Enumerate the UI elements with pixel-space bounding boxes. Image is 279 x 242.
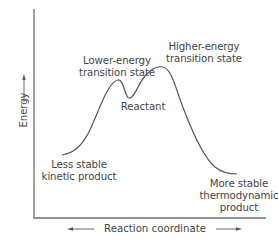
lower-ts-label-line2: transition state xyxy=(72,67,162,79)
reactant-label: Reactant xyxy=(113,101,173,113)
x-axis-label: Reaction coordinate xyxy=(60,223,250,234)
reaction-energy-diagram: Lower-energy transition state Higher-ene… xyxy=(0,0,279,242)
kinetic-label-line1: Less stable xyxy=(29,159,129,171)
thermo-label-line3: product xyxy=(196,202,279,214)
lower-ts-label-line1: Lower-energy xyxy=(72,55,162,67)
thermodynamic-product-label: More stable thermodynamic product xyxy=(196,178,279,214)
thermo-label-line2: thermodynamic xyxy=(196,190,279,202)
lower-ts-label: Lower-energy transition state xyxy=(72,55,162,79)
kinetic-product-label: Less stable kinetic product xyxy=(29,159,129,183)
higher-ts-label: Higher-energy transition state xyxy=(159,41,249,65)
thermo-label-line1: More stable xyxy=(196,178,279,190)
energy-curve xyxy=(62,67,237,174)
y-axis-label: Energy xyxy=(18,80,30,140)
higher-ts-label-line2: transition state xyxy=(159,53,249,65)
kinetic-label-line2: kinetic product xyxy=(29,171,129,183)
higher-ts-label-line1: Higher-energy xyxy=(159,41,249,53)
